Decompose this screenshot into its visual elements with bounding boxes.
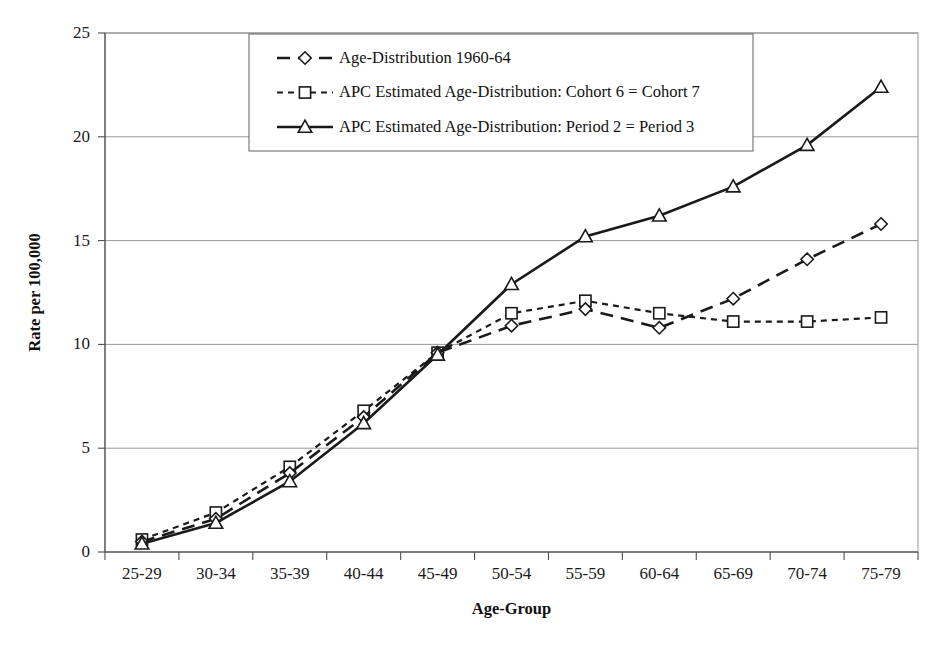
x-tick-label: 35-39	[270, 564, 310, 583]
chart-figure: 051015202525-2930-3435-3940-4445-4950-54…	[0, 0, 934, 656]
data-point-diamond	[727, 293, 739, 305]
x-tick-label: 25-29	[122, 564, 162, 583]
data-point-diamond	[505, 320, 517, 332]
legend-label-2: APC Estimated Age-Distribution: Period 2…	[339, 117, 694, 136]
x-tick-label: 60-64	[639, 564, 679, 583]
legend-marker-square	[299, 87, 310, 98]
y-tick-label: 5	[82, 438, 91, 457]
y-tick-label: 20	[73, 127, 90, 146]
x-tick-label: 30-34	[196, 564, 236, 583]
x-tick-label: 70-74	[787, 564, 827, 583]
x-tick-label: 55-59	[566, 564, 606, 583]
data-point-square	[802, 316, 813, 327]
y-axis-title: Rate per 100,000	[25, 233, 44, 351]
data-point-diamond	[875, 218, 887, 230]
data-point-square	[875, 312, 886, 323]
series-line-diamond	[142, 224, 881, 542]
y-axis-title-group: Rate per 100,000	[25, 233, 44, 351]
x-tick-label: 50-54	[492, 564, 532, 583]
x-tick-label: 75-79	[861, 564, 901, 583]
data-point-diamond	[801, 253, 813, 265]
data-point-triangle	[874, 80, 888, 92]
legend-item-1[interactable]: APC Estimated Age-Distribution: Cohort 6…	[277, 82, 700, 101]
y-tick-label: 25	[73, 23, 90, 42]
x-tick-label: 65-69	[713, 564, 753, 583]
x-axis-title: Age-Group	[472, 599, 551, 618]
legend-item-2[interactable]: APC Estimated Age-Distribution: Period 2…	[277, 117, 694, 136]
y-tick-label: 15	[73, 231, 90, 250]
data-point-square	[654, 308, 665, 319]
data-point-diamond	[653, 322, 665, 334]
data-point-square	[728, 316, 739, 327]
series-line-square	[142, 301, 881, 540]
data-point-square	[506, 308, 517, 319]
series-diamond	[136, 218, 887, 548]
legend-label-1: APC Estimated Age-Distribution: Cohort 6…	[339, 82, 700, 101]
line-chart: 051015202525-2930-3435-3940-4445-4950-54…	[0, 0, 934, 656]
data-point-triangle	[505, 277, 519, 289]
x-tick-label: 40-44	[344, 564, 384, 583]
x-tick-label: 45-49	[418, 564, 458, 583]
y-tick-label: 0	[82, 542, 91, 561]
legend: Age-Distribution 1960-64APC Estimated Ag…	[249, 34, 753, 151]
y-tick-label: 10	[73, 334, 90, 353]
legend-label-0: Age-Distribution 1960-64	[339, 48, 511, 67]
data-point-triangle	[726, 180, 740, 192]
